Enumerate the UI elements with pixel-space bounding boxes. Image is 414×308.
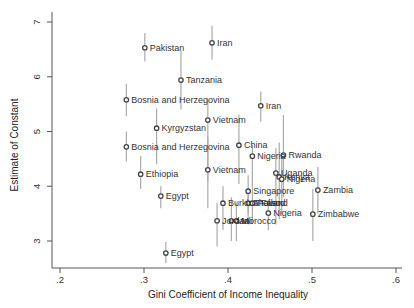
data-point xyxy=(259,104,263,108)
point-label: Singapore xyxy=(253,186,294,196)
point-label: Iran xyxy=(217,38,233,48)
x-axis-title: Gini Coefficient of Income Inequality xyxy=(148,289,308,300)
point-label: Vietnam xyxy=(213,165,246,175)
point-label: Bosnia and Herzegovina xyxy=(131,95,229,105)
data-point xyxy=(266,211,270,215)
point-label: Egypt xyxy=(166,191,190,201)
x-axis-ticks: .2.3.4.5.6 xyxy=(56,268,400,285)
data-point xyxy=(154,126,158,130)
point-label: China xyxy=(244,140,268,150)
data-point xyxy=(164,251,168,255)
point-label: Tanzania xyxy=(186,75,222,85)
x-tick-label: .2 xyxy=(56,274,64,285)
point-label: Nigeria xyxy=(287,174,316,184)
point-label: Nigeria xyxy=(257,151,286,161)
point-labels: PakistanIranTanzaniaBosnia and Herzegovi… xyxy=(131,38,359,258)
data-point xyxy=(210,41,214,45)
y-axis-ticks: 34567 xyxy=(31,19,52,243)
point-label: Ethiopia xyxy=(146,169,179,179)
data-point xyxy=(159,194,163,198)
y-tick-label: 4 xyxy=(31,184,42,189)
data-point xyxy=(124,145,128,149)
data-point xyxy=(206,168,210,172)
data-point xyxy=(221,201,225,205)
data-point xyxy=(246,189,250,193)
point-label: Poland xyxy=(257,198,285,208)
y-tick-label: 5 xyxy=(31,129,42,134)
x-tick-label: .6 xyxy=(392,274,400,285)
point-label: Rwanda xyxy=(288,150,321,160)
data-point xyxy=(143,46,147,50)
x-tick-label: .3 xyxy=(140,274,148,285)
point-label: Bosnia and Herzegovina xyxy=(131,142,229,152)
point-label: Morocco xyxy=(241,216,276,226)
data-point xyxy=(206,118,210,122)
scatter-chart: PakistanIranTanzaniaBosnia and Herzegovi… xyxy=(0,0,414,308)
data-point xyxy=(311,212,315,216)
point-label: Zimbabwe xyxy=(318,209,360,219)
y-tick-label: 7 xyxy=(31,19,42,24)
point-label: Egypt xyxy=(171,248,195,258)
data-point xyxy=(179,78,183,82)
y-axis-title: Estimate of Constant xyxy=(9,98,20,191)
data-point xyxy=(215,219,219,223)
x-tick-label: .4 xyxy=(224,274,232,285)
data-point xyxy=(138,172,142,176)
point-label: Pakistan xyxy=(150,43,185,53)
x-tick-label: .5 xyxy=(308,274,316,285)
y-tick-label: 6 xyxy=(31,74,42,79)
data-point xyxy=(124,98,128,102)
y-tick-label: 3 xyxy=(31,238,42,243)
point-label: Kyrgyzstan xyxy=(162,123,207,133)
data-point xyxy=(250,154,254,158)
point-label: Nigeria xyxy=(273,208,302,218)
point-label: Vietnam xyxy=(213,115,246,125)
data-point xyxy=(237,143,241,147)
data-point xyxy=(274,171,278,175)
point-label: Zambia xyxy=(323,185,353,195)
data-point xyxy=(316,188,320,192)
point-label: Iran xyxy=(266,101,282,111)
